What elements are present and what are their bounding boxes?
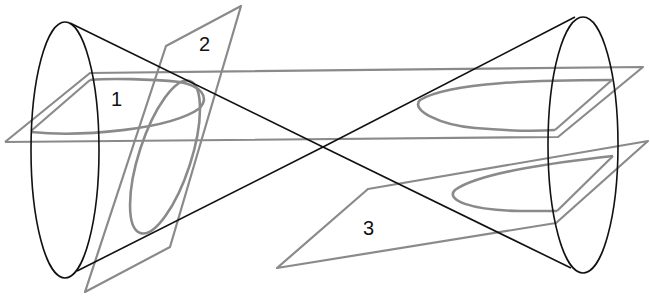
right-cone-bottom-edge xyxy=(323,147,571,268)
diagram-canvas xyxy=(0,0,650,296)
section-3-curve xyxy=(453,156,613,211)
left-cone-bottom-edge xyxy=(77,147,323,271)
plane-3-inner-edge xyxy=(557,156,613,211)
label-plane-2: 2 xyxy=(199,34,210,54)
label-plane-1: 1 xyxy=(111,89,122,109)
plane-1-inner-edge-right xyxy=(555,80,612,130)
plane-2 xyxy=(85,6,241,292)
right-cone-base xyxy=(548,17,618,273)
double-cone xyxy=(31,17,618,278)
plane-3 xyxy=(277,141,648,268)
plane-1 xyxy=(5,67,643,142)
plane-2-outline xyxy=(85,6,241,292)
plane-1-inner-edge-left xyxy=(31,80,90,131)
label-plane-3: 3 xyxy=(363,218,374,238)
plane-3-outline xyxy=(277,141,648,268)
left-cone-top-edge xyxy=(70,23,323,147)
conic-sections-diagram: 1 2 3 xyxy=(0,0,650,296)
left-cone-base xyxy=(31,22,99,278)
